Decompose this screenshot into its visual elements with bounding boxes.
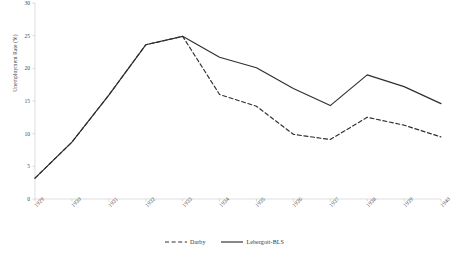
x-tick-label: 1932 [144,196,156,208]
x-tick-label: 1939 [402,196,414,208]
legend-swatch-dashed [165,239,187,245]
x-tick-label: 1931 [107,196,119,208]
x-tick-label: 1933 [181,196,193,208]
chart-legend: DarbyLebergott-BLS [0,239,449,245]
legend-item: Lebergott-BLS [221,239,284,245]
x-tick-label: 1937 [328,196,340,208]
x-tick-label: 1936 [291,196,303,208]
x-tick-label: 1929 [33,196,45,208]
legend-item: Darby [165,239,206,245]
x-tick-label: 1938 [365,196,377,208]
legend-label: Lebergott-BLS [246,239,284,245]
legend-swatch-solid [221,239,243,245]
x-tick-label: 1934 [218,196,230,208]
x-tick-label: 1940 [439,196,451,208]
x-tick-label: 1935 [254,196,266,208]
x-tick-label: 1930 [70,196,82,208]
legend-label: Darby [190,239,206,245]
